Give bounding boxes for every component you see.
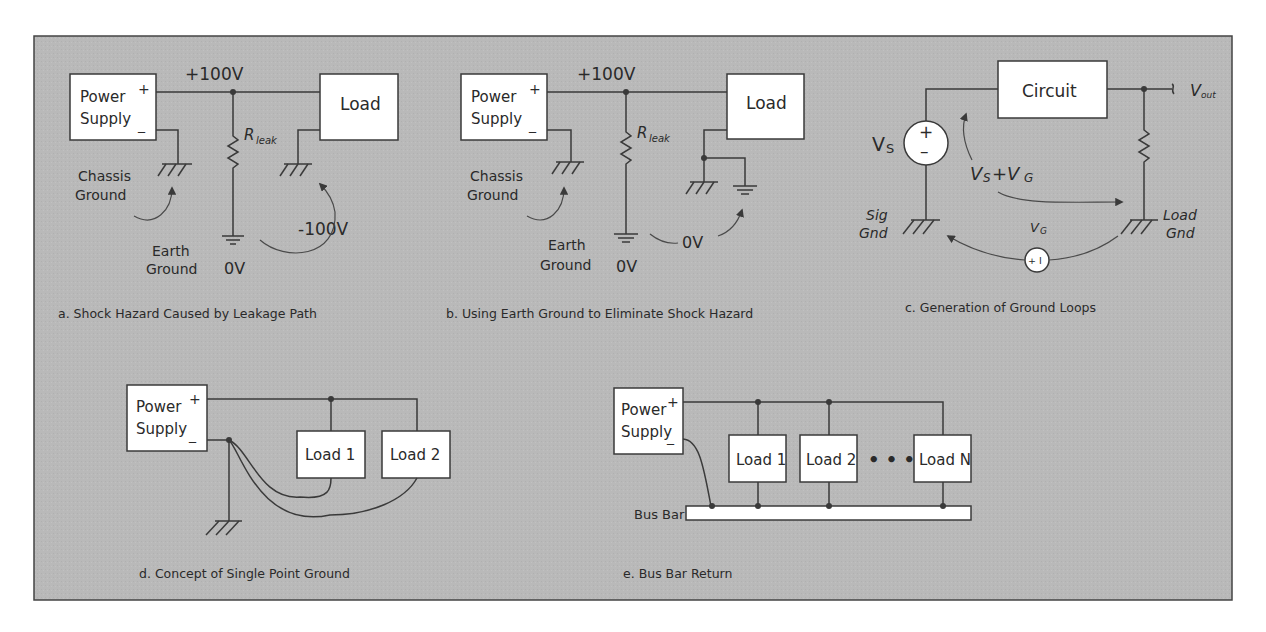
plus-terminal: +: [667, 394, 679, 410]
vg-source-label: + I: [1028, 255, 1042, 266]
sum-label-vg-sub: G: [1024, 171, 1033, 185]
earth-ground-label-2: Ground: [540, 257, 592, 273]
power-supply-label-line2: Supply: [136, 420, 187, 438]
power-supply-label-line1: Power: [136, 398, 182, 416]
ellipsis: • • •: [868, 449, 915, 470]
load-2-label: Load 2: [806, 451, 856, 469]
diff-voltage: 0V: [682, 233, 703, 252]
sig-gnd-label-2: Gnd: [859, 225, 888, 241]
chassis-ground-label-2: Ground: [467, 187, 519, 203]
load-label: Load: [340, 94, 381, 114]
vs-label: V: [872, 133, 885, 155]
sig-gnd-label-1: Sig: [866, 207, 888, 223]
load-gnd-label-2: Gnd: [1166, 225, 1195, 241]
power-supply-label-line2: Supply: [471, 110, 522, 128]
vg-label: V: [1030, 220, 1040, 235]
bus-bar-label: Bus Bar: [634, 507, 685, 522]
minus-terminal: _: [666, 429, 675, 445]
sum-label-vs: V: [970, 163, 984, 184]
vg-subscript: G: [1040, 226, 1047, 236]
minus-terminal: _: [137, 117, 146, 133]
power-supply-label-line2: Supply: [80, 110, 131, 128]
vs-subscript: S: [886, 141, 894, 156]
minus-terminal: _: [528, 117, 537, 133]
power-supply-label-line1: Power: [621, 401, 667, 419]
resistor-subscript: leak: [256, 135, 278, 146]
power-supply-label-line1: Power: [471, 88, 517, 106]
sum-label-vg: +V: [992, 163, 1021, 184]
resistor-label: R: [244, 126, 254, 144]
grounding-diagram: Power Supply + _ +100V Load R leak Earth…: [0, 0, 1266, 632]
resistor-label: R: [637, 124, 647, 142]
vout-subscript: out: [1201, 90, 1216, 100]
rail-voltage: +100V: [577, 64, 636, 84]
circuit-label: Circuit: [1022, 81, 1077, 101]
source-minus: –: [920, 141, 929, 161]
chassis-ground-label-2: Ground: [75, 187, 127, 203]
chassis-ground-label-1: Chassis: [78, 168, 131, 184]
power-supply-label-line1: Power: [80, 88, 126, 106]
plus-terminal: +: [138, 81, 150, 97]
earth-voltage: 0V: [224, 259, 245, 278]
sum-label-vs-sub: S: [983, 171, 991, 185]
chassis-ground-label-1: Chassis: [470, 168, 523, 184]
rail-voltage: +100V: [185, 64, 244, 84]
hazard-voltage: -100V: [298, 219, 349, 239]
minus-terminal: _: [188, 427, 197, 443]
power-supply-label-line2: Supply: [621, 423, 672, 441]
caption-c: c. Generation of Ground Loops: [905, 300, 1096, 315]
plus-terminal: +: [189, 391, 201, 407]
caption-e: e. Bus Bar Return: [623, 566, 732, 581]
load-1-label: Load 1: [736, 451, 786, 469]
earth-ground-label-1: Earth: [548, 237, 586, 253]
earth-ground-label-1: Earth: [152, 243, 190, 259]
plus-terminal: +: [529, 81, 541, 97]
earth-ground-label-2: Ground: [146, 261, 198, 277]
load-1-label: Load 1: [305, 446, 355, 464]
caption-b: b. Using Earth Ground to Eliminate Shock…: [446, 306, 753, 321]
caption-a: a. Shock Hazard Caused by Leakage Path: [58, 306, 317, 321]
load-label: Load: [746, 93, 787, 113]
load-n-label: Load N: [919, 451, 971, 469]
load-2-label: Load 2: [390, 446, 440, 464]
load-gnd-label-1: Load: [1163, 207, 1197, 223]
earth-voltage: 0V: [616, 257, 637, 276]
source-plus: +: [919, 122, 933, 142]
resistor-subscript: leak: [649, 133, 671, 144]
caption-d: d. Concept of Single Point Ground: [139, 566, 350, 581]
